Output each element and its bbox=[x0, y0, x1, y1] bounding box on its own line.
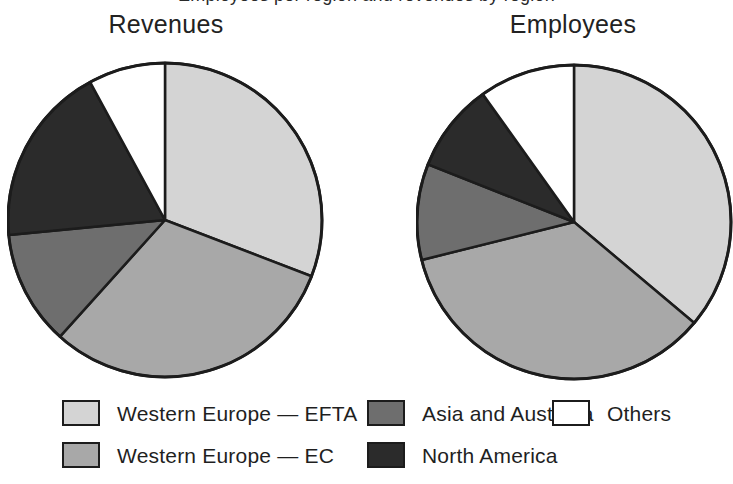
legend-label: Others bbox=[607, 403, 671, 424]
legend-item: Western Europe — EFTA bbox=[62, 392, 357, 434]
legend-label: Western Europe — EFTA bbox=[117, 403, 357, 424]
pie-chart-revenues bbox=[7, 60, 327, 380]
pie-chart-employees bbox=[416, 60, 733, 384]
legend-label: North America bbox=[422, 445, 558, 466]
legend-column-3: Others bbox=[552, 392, 671, 434]
legend-swatch-north-america bbox=[367, 442, 405, 468]
chart-title-employees: Employees bbox=[408, 10, 733, 39]
top-partial-caption-text: Employees per region and revenues by reg… bbox=[0, 0, 733, 6]
chart-title-revenues: Revenues bbox=[1, 10, 331, 39]
legend-swatch-western-europe-ec bbox=[62, 442, 100, 468]
legend-swatch-western-europe-efta bbox=[62, 400, 100, 426]
legend-swatch-asia-and-australia bbox=[367, 400, 405, 426]
legend-column-1: Western Europe — EFTA Western Europe — E… bbox=[62, 392, 357, 476]
legend-item: Western Europe — EC bbox=[62, 434, 357, 476]
legend-item: North America bbox=[367, 434, 594, 476]
legend-swatch-others bbox=[552, 400, 590, 426]
pie-chart-revenues-svg bbox=[7, 60, 327, 380]
legend-item: Others bbox=[552, 392, 671, 434]
pie-chart-employees-svg bbox=[416, 60, 733, 384]
legend-label: Western Europe — EC bbox=[117, 445, 334, 466]
